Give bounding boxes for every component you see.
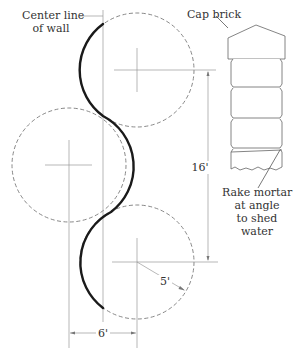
- cap-brick-label: Cap brick: [184, 8, 244, 21]
- serpentine-wall-diagram: [0, 0, 298, 355]
- arrow-16ft-top: [207, 71, 210, 76]
- rake-line4: water: [222, 225, 292, 238]
- rake-mortar-label: Rake mortar at angle to shed water: [222, 186, 292, 238]
- rake-line1: Rake mortar: [222, 186, 292, 199]
- rake-line2: at angle: [222, 199, 292, 212]
- arrow-6ft-right: [131, 332, 136, 335]
- arrow-radius: [179, 286, 186, 291]
- rake-line3: to shed: [222, 212, 292, 225]
- brick-column-detail: [228, 25, 285, 170]
- serpentine-wall-curve: [80, 24, 134, 308]
- center-line-label-line2: of wall: [22, 22, 80, 35]
- arrow-16ft-bottom: [207, 256, 210, 261]
- center-line-label-line1: Center line: [22, 9, 80, 22]
- brick-2: [231, 88, 282, 118]
- dimension-16ft-label: 16': [191, 161, 209, 174]
- brick-1: [231, 59, 282, 87]
- cap-brick: [228, 25, 285, 59]
- dimension-6ft-label: 6': [96, 327, 110, 340]
- brick-3: [231, 119, 282, 148]
- dimension-5ft-label: 5': [158, 275, 172, 288]
- center-line-label: Center line of wall: [22, 9, 80, 35]
- arrow-6ft-left: [70, 332, 75, 335]
